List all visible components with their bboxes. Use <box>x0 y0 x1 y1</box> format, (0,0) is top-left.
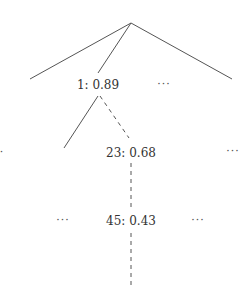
ellipsis-level3-right: ··· <box>191 215 205 226</box>
ellipsis-level3-left: ··· <box>56 215 70 226</box>
edge-root-right <box>131 23 232 79</box>
ellipsis-level1-right: ··· <box>157 79 171 90</box>
node-45-label: 45: 0.43 <box>106 215 156 227</box>
ellipsis-level2-right: ··· <box>226 146 240 157</box>
edge-root-left <box>30 23 131 79</box>
edge-n1-left-child <box>64 96 98 148</box>
edge-n1-n23 <box>100 96 129 138</box>
node-23-label: 23: 0.68 <box>106 147 156 159</box>
node-1-label: 1: 0.89 <box>77 79 119 91</box>
ellipsis-level2-left: · <box>0 147 4 158</box>
edge-root-n1 <box>98 23 131 73</box>
